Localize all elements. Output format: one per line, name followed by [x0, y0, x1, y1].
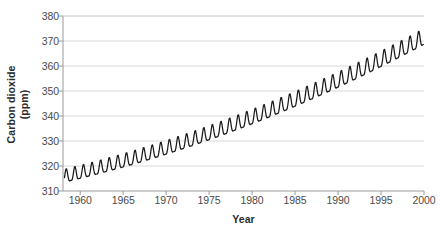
x-tick-label: 2000 — [413, 194, 436, 206]
y-tick-label: 320 — [33, 160, 59, 172]
x-axis-title: Year — [63, 213, 424, 225]
x-tick-label: 1965 — [112, 194, 135, 206]
y-tick-label: 380 — [33, 10, 59, 22]
x-tick-label: 1970 — [155, 194, 178, 206]
x-tick-label: 1995 — [370, 194, 393, 206]
x-tick-label: 1990 — [327, 194, 350, 206]
x-tick-label: 1980 — [241, 194, 264, 206]
y-tick-label: 350 — [33, 85, 59, 97]
y-tick-label: 330 — [33, 135, 59, 147]
y-tick-label: 360 — [33, 60, 59, 72]
x-tick-label: 1985 — [284, 194, 307, 206]
y-tick-label: 310 — [33, 185, 59, 197]
y-axis-tick-labels: 310320330340350360370380 — [28, 0, 59, 235]
y-tick-label: 370 — [33, 35, 59, 47]
y-axis-title-line1: Carbon dioxide — [6, 65, 18, 143]
y-tick-label: 340 — [33, 110, 59, 122]
co2-series-line — [64, 31, 423, 181]
x-tick-label: 1960 — [69, 194, 92, 206]
co2-chart-figure: Carbon dioxide (ppm) 3103203303403503603… — [0, 0, 447, 235]
x-tick-label: 1975 — [198, 194, 221, 206]
